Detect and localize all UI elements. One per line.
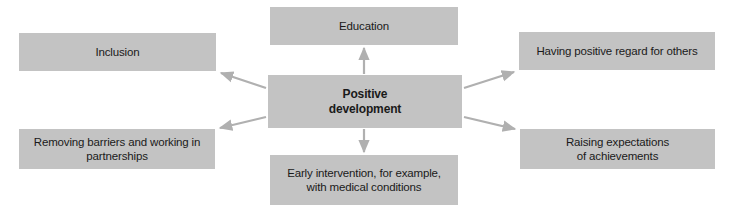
arrow-center-to-inclusion [221, 73, 266, 88]
node-removing-barriers-label: Removing barriers and working in partner… [34, 135, 201, 163]
arrow-center-to-positive-regard [464, 72, 514, 88]
arrow-center-to-raising-expectations [464, 117, 515, 129]
node-removing-barriers: Removing barriers and working in partner… [19, 129, 215, 169]
node-positive-regard: Having positive regard for others [519, 32, 715, 70]
node-education-label: Education [339, 19, 389, 33]
node-early-intervention-label: Early intervention, for example, with me… [287, 166, 441, 194]
concept-diagram: Education Inclusion Having positive rega… [0, 0, 730, 214]
node-positive-regard-label: Having positive regard for others [536, 44, 697, 58]
node-inclusion-label: Inclusion [95, 45, 139, 59]
node-raising-expectations: Raising expectations of achievements [520, 129, 715, 169]
node-raising-expectations-label: Raising expectations of achievements [566, 135, 669, 163]
node-positive-development-label: Positive development [329, 87, 401, 117]
node-education: Education [270, 7, 458, 45]
node-positive-development: Positive development [268, 75, 462, 128]
node-inclusion: Inclusion [19, 33, 216, 71]
arrow-center-to-removing-barriers [220, 117, 266, 128]
node-early-intervention: Early intervention, for example, with me… [270, 155, 458, 205]
